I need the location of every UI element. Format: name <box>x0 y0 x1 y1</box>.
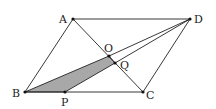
point-P <box>63 90 66 93</box>
point-D <box>188 17 191 20</box>
label-P: P <box>61 96 69 109</box>
label-B: B <box>12 87 20 100</box>
shaded-region-BOQP <box>25 56 115 92</box>
segment-QD <box>115 19 190 63</box>
label-O: O <box>104 42 113 55</box>
point-C <box>141 90 144 93</box>
geometry-diagram: A B C D O Q P <box>0 0 216 109</box>
point-B <box>23 90 26 93</box>
point-Q <box>113 61 116 64</box>
label-A: A <box>58 13 68 26</box>
label-D: D <box>194 13 203 26</box>
label-C: C <box>146 89 154 102</box>
label-Q: Q <box>120 59 129 72</box>
point-A <box>71 17 74 20</box>
